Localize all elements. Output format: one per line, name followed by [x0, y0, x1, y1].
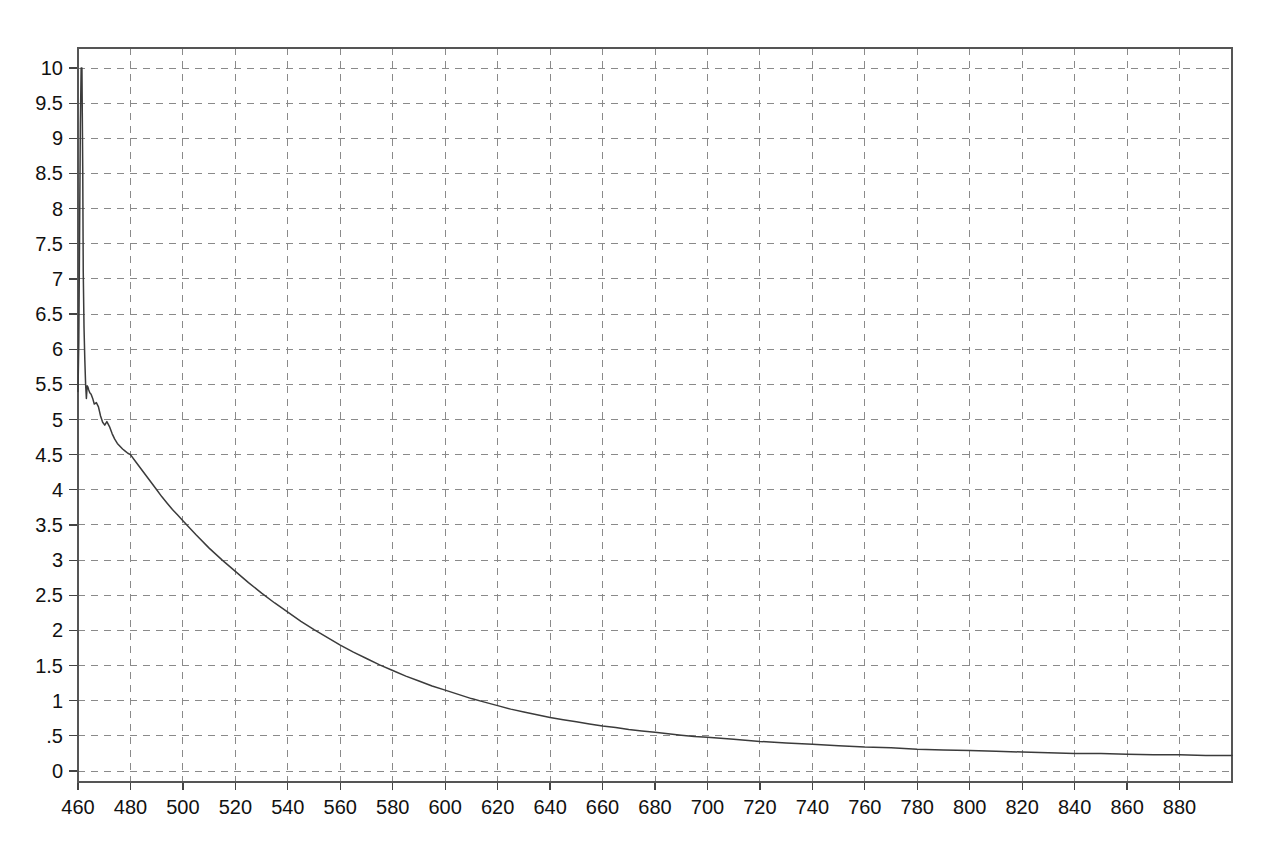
- x-tick-label: 460: [61, 796, 94, 818]
- y-tick-label: 10: [41, 57, 63, 79]
- chart-container: 0.511.522.533.544.555.566.577.588.599.51…: [0, 0, 1279, 868]
- y-tick-label: 2.5: [35, 584, 63, 606]
- x-tick-label: 640: [533, 796, 566, 818]
- y-tick-label: 9: [52, 127, 63, 149]
- x-tick-label: 600: [428, 796, 461, 818]
- horizontal-gridlines: [78, 68, 1232, 771]
- x-tick-label: 620: [481, 796, 514, 818]
- x-tick-label: 720: [743, 796, 776, 818]
- y-tick-label: 2: [52, 619, 63, 641]
- y-tick-label: 6.5: [35, 303, 63, 325]
- y-tick-label: 1: [52, 690, 63, 712]
- x-tick-label: 780: [901, 796, 934, 818]
- y-tick-label: 7: [52, 268, 63, 290]
- y-tick-label: 9.5: [35, 92, 63, 114]
- x-tick-label: 520: [219, 796, 252, 818]
- y-tick-label: 5.5: [35, 373, 63, 395]
- x-tick-label: 580: [376, 796, 409, 818]
- chart-background: [0, 0, 1279, 868]
- y-tick-label: 4.5: [35, 444, 63, 466]
- y-tick-label: 7.5: [35, 233, 63, 255]
- x-tick-label: 680: [638, 796, 671, 818]
- x-tick-label: 800: [953, 796, 986, 818]
- y-tick-label: 6: [52, 338, 63, 360]
- x-tick-label: 740: [796, 796, 829, 818]
- x-tick-label: 860: [1110, 796, 1143, 818]
- y-tick-label: 0: [52, 760, 63, 782]
- x-tick-label: 760: [848, 796, 881, 818]
- y-tick-label: 4: [52, 479, 63, 501]
- x-tick-label: 820: [1005, 796, 1038, 818]
- x-tick-label: 660: [586, 796, 619, 818]
- y-tick-label: 8: [52, 198, 63, 220]
- x-tick-label: 560: [324, 796, 357, 818]
- x-tick-label: 500: [166, 796, 199, 818]
- line-chart: 0.511.522.533.544.555.566.577.588.599.51…: [0, 0, 1279, 868]
- y-tick-label: 3: [52, 549, 63, 571]
- y-tick-label: 8.5: [35, 162, 63, 184]
- x-tick-label: 480: [114, 796, 147, 818]
- y-tick-label: 3.5: [35, 514, 63, 536]
- x-tick-label: 880: [1163, 796, 1196, 818]
- y-tick-label: .5: [46, 725, 63, 747]
- y-tick-label: 5: [52, 409, 63, 431]
- x-tick-label: 540: [271, 796, 304, 818]
- x-tick-label: 840: [1058, 796, 1091, 818]
- y-tick-label: 1.5: [35, 655, 63, 677]
- x-tick-label: 700: [691, 796, 724, 818]
- y-axis-tickmarks: [69, 68, 78, 771]
